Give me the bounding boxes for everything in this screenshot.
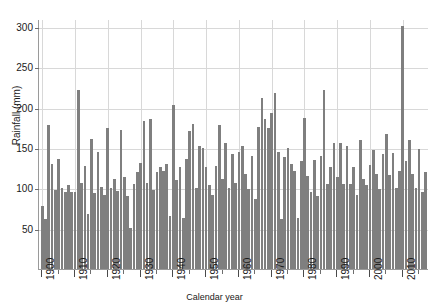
bar-1908 [67,185,70,269]
bar-1945 [188,131,191,269]
y-tick-label-300: 300 [3,23,33,33]
bar-2005 [385,134,388,269]
bar-1994 [349,184,352,269]
bar-1913 [84,166,87,269]
x-tick-1965 [254,270,255,274]
bar-1996 [356,195,359,269]
bar-1949 [202,148,205,269]
y-tick-label-150: 150 [3,144,33,154]
bar-1954 [218,125,221,269]
rainfall-bar-chart: Rainfall (mm) 50100150200250300 19001910… [0,0,429,307]
bar-1976 [290,164,293,269]
bar-1922 [113,179,116,269]
bar-1903 [51,164,54,269]
bar-1935 [156,172,159,269]
bar-1906 [61,188,64,269]
bar-1987 [326,184,329,269]
bar-1938 [165,164,168,269]
x-tick-label-2000: 2000 [373,258,384,280]
bar-1978 [297,218,300,269]
x-tick-label-1990: 1990 [340,258,351,280]
x-tick-2005 [385,270,386,274]
bar-1924 [120,130,123,269]
bar-1979 [300,161,303,269]
x-tick-1900 [41,270,42,277]
bar-2015 [418,149,421,269]
bar-series [39,20,428,269]
bar-1981 [306,176,309,269]
bar-1991 [339,143,342,269]
y-tick-label-250: 250 [3,63,33,73]
x-tick-1970 [271,270,272,277]
bar-2006 [388,175,391,269]
bar-1962 [244,174,247,269]
bar-1905 [57,159,60,269]
x-tick-label-1950: 1950 [209,258,220,280]
bar-1916 [93,193,96,269]
x-tick-label-1930: 1930 [144,258,155,280]
bar-2016 [421,192,424,269]
bar-1948 [198,146,201,269]
bar-1999 [365,185,368,269]
bar-1910 [74,192,77,269]
x-tick-1905 [58,270,59,274]
bar-1969 [267,128,270,269]
x-tick-label-1980: 1980 [307,258,318,280]
bar-1956 [224,143,227,269]
bar-2001 [372,150,375,269]
bar-1939 [169,216,172,269]
bar-1964 [251,156,254,269]
plot-area [38,20,428,270]
x-axis-title: Calendar year [0,292,429,302]
y-tick-label-200: 200 [3,104,33,114]
x-tick-1995 [353,270,354,274]
x-tick-1910 [74,270,75,277]
bar-1911 [77,90,80,269]
bar-1925 [123,177,126,269]
bar-1990 [336,177,339,269]
bar-1985 [320,156,323,269]
top-title-artifact [36,0,336,7]
bar-2000 [369,165,372,269]
bar-1975 [287,148,290,269]
bar-1958 [231,154,234,269]
bar-1955 [221,179,224,269]
bar-1902 [47,125,50,269]
bar-1931 [143,121,146,269]
x-tick-label-2010: 2010 [406,258,417,280]
bar-1961 [241,146,244,269]
bar-1971 [274,93,277,269]
bar-1951 [208,185,211,269]
bar-1998 [362,179,365,269]
bar-1933 [149,119,152,269]
bar-1937 [162,171,165,269]
bar-2007 [392,153,395,269]
bar-1941 [175,180,178,269]
bar-1967 [261,98,264,269]
bar-1995 [352,167,355,269]
x-tick-1950 [205,270,206,277]
x-tick-1975 [287,270,288,274]
bar-1968 [264,119,267,269]
x-tick-1940 [172,270,173,277]
bar-2011 [405,161,408,269]
bar-1980 [303,118,306,269]
x-tick-2000 [369,270,370,277]
x-tick-1920 [107,270,108,277]
x-tick-2010 [402,270,403,277]
bar-2008 [395,188,398,269]
bar-2002 [375,174,378,269]
x-tick-2015 [418,270,419,274]
x-tick-label-1960: 1960 [242,258,253,280]
x-axis-ticks [38,270,428,278]
bar-1972 [277,152,280,269]
x-tick-1935 [156,270,157,274]
bar-1974 [283,157,286,269]
x-tick-label-1940: 1940 [176,258,187,280]
bar-1957 [228,188,231,269]
bar-1928 [133,184,136,269]
bar-2017 [424,172,427,269]
x-tick-label-1900: 1900 [45,258,56,280]
bar-1966 [257,127,260,269]
bar-1959 [234,183,237,269]
